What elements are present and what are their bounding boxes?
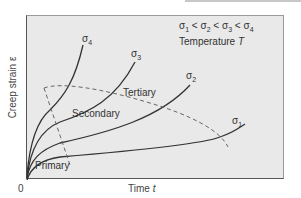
y-axis-label: Creep strain ε [7,43,18,133]
stress-order: σ1 < σ2 < σ3 < σ4 [179,20,254,36]
label-sigma2: σ2 [186,70,196,83]
boundary-primary-secondary [44,88,70,165]
label-sigma3: σ3 [131,48,141,61]
curve-sigma1 [27,124,245,180]
label-sigma1: σ1 [232,115,242,128]
region-primary: Primary [35,160,69,171]
region-secondary: Secondary [72,108,120,119]
origin-label: 0 [18,183,24,194]
region-tertiary: Tertiary [123,87,156,98]
label-sigma4: σ4 [82,33,92,46]
legend: σ1 < σ2 < σ3 < σ4 Temperature T [179,20,254,48]
x-axis-label: Time t [128,183,155,194]
temperature-label: Temperature T [179,36,254,48]
